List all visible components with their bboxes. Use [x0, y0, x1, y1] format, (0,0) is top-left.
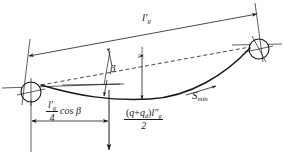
label-beta-angle: β	[110, 63, 115, 74]
beta-horizontal-ray	[62, 84, 124, 85]
quarter-span-denominator: 4	[46, 112, 58, 124]
figure-container: l′g β ymax Smin l′g 4 cos β (q+qd)l″g 2	[0, 0, 284, 159]
label-quarter-span: l′g 4 cos β	[46, 99, 81, 123]
label-y-max-base: y	[135, 54, 144, 58]
load-resultant-denominator: 2	[124, 120, 163, 132]
load-l-subscript: g	[158, 112, 161, 119]
load-resultant-numerator: (q+qd)l″g	[124, 107, 163, 120]
label-span-length: l′g	[142, 12, 151, 25]
chord-line-dashed	[41, 47, 250, 85]
label-y-max: ymax	[136, 46, 145, 58]
label-s-min-subscript: min	[198, 95, 208, 102]
label-s-min: Smin	[192, 90, 208, 103]
quarter-span-fraction: l′g 4	[46, 99, 58, 123]
label-y-max-subscript: max	[139, 46, 144, 54]
label-load-resultant: (q+qd)l″g 2	[124, 107, 163, 131]
sag-curve	[41, 48, 250, 99]
quarter-span-numerator-subscript: g	[53, 104, 56, 111]
quarter-span-numerator: l′g	[46, 99, 58, 112]
label-span-length-subscript: g	[147, 17, 150, 24]
quarter-span-trailing: cos β	[60, 105, 81, 117]
